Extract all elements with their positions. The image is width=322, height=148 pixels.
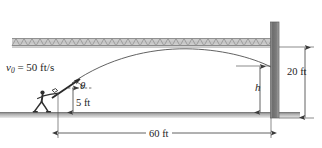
ground-group [0,112,300,118]
ground-icon [0,112,300,118]
velocity-vector-group [52,79,80,98]
velocity-subscript: 0 [11,66,15,75]
figure-canvas [0,0,322,148]
initial-velocity-label: v0 = 50 ft/s [6,62,54,73]
impact-height-dimension [236,66,271,112]
angle-label: θ [80,80,85,91]
impact-height-label: h [255,82,261,93]
velocity-equals: = [15,61,27,73]
projectile-motion-figure: v0 = 50 ft/s θ 5 ft h 20 ft 60 ft [0,0,322,148]
ceiling-group [12,39,271,48]
person-throwing-icon [33,89,57,112]
wall-height-label: 20 ft [287,67,307,78]
velocity-value: 50 ft/s [26,61,54,73]
horizontal-distance-label: 60 ft [146,129,172,140]
wall-group [271,22,280,118]
launch-height-label: 5 ft [76,98,90,109]
wall-height-dimension [279,47,314,118]
velocity-arrow [52,79,80,98]
wall-icon [271,22,280,118]
